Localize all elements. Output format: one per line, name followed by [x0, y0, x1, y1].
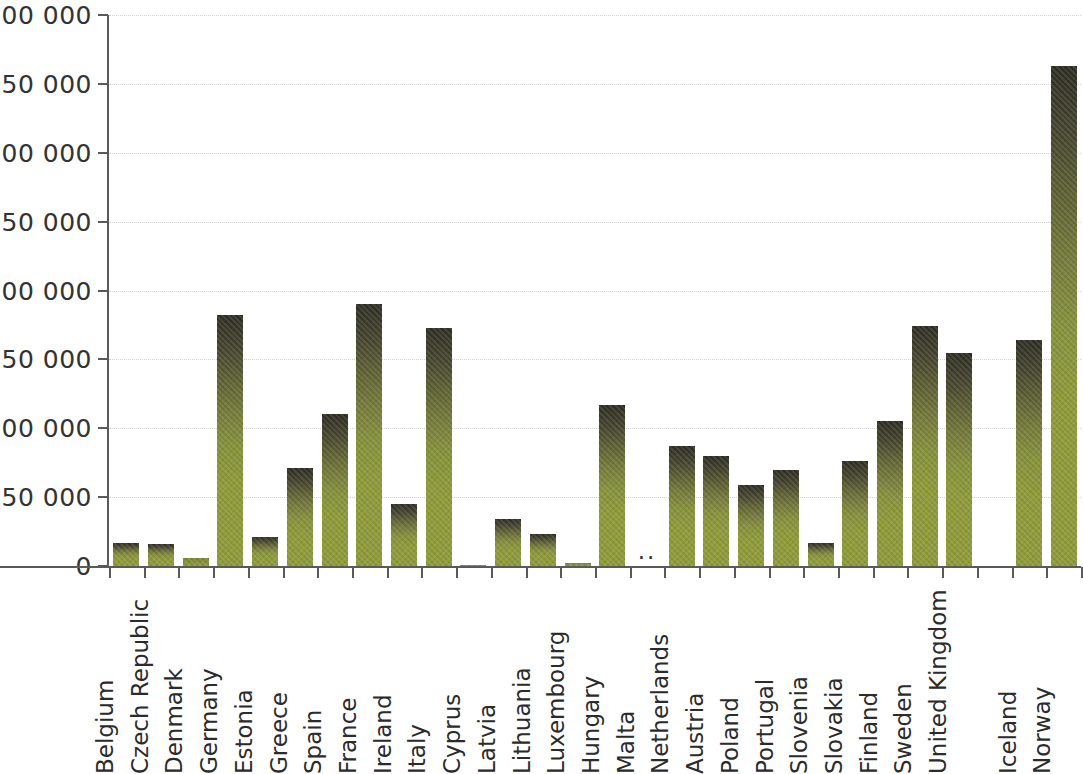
x-axis-label-text: Ireland	[370, 694, 396, 774]
x-axis-label-text: Austria	[682, 693, 708, 774]
bar-slot	[317, 15, 352, 566]
x-tick-mark	[491, 567, 493, 578]
bar-slot	[838, 15, 873, 566]
bar[interactable]	[217, 315, 243, 566]
bar[interactable]	[808, 543, 834, 566]
y-tick-label: 350 000	[0, 69, 92, 98]
x-axis-ticks	[109, 567, 1081, 579]
x-tick-mark	[769, 567, 771, 578]
plot-area: ..	[109, 15, 1081, 566]
x-axis-label-text: Cyprus	[439, 694, 465, 774]
bar[interactable]	[113, 543, 139, 566]
bar[interactable]	[1051, 66, 1077, 566]
bar-slot	[283, 15, 318, 566]
bar[interactable]	[1016, 340, 1042, 566]
y-tick-mark	[98, 14, 108, 16]
bar-slot	[213, 15, 248, 566]
bar[interactable]	[669, 446, 695, 566]
x-axis-label-text: Malta	[613, 711, 639, 774]
y-axis: 050 000100 000150 000200 000250 000300 0…	[0, 0, 108, 580]
bar-slot	[352, 15, 387, 566]
bar[interactable]	[426, 328, 452, 566]
y-tick-mark	[98, 290, 108, 292]
x-tick-mark	[595, 567, 597, 578]
bar[interactable]	[252, 537, 278, 566]
x-tick-mark	[1012, 567, 1014, 578]
bar-slot	[699, 15, 734, 566]
y-tick-label: 300 000	[0, 138, 92, 167]
x-axis-label-text: Latvia	[474, 704, 500, 774]
x-tick-mark	[109, 567, 111, 578]
y-tick-label: 200 000	[0, 276, 92, 305]
bar[interactable]	[877, 421, 903, 566]
bar-slot	[109, 15, 144, 566]
x-tick-mark	[421, 567, 423, 578]
x-tick-mark	[907, 567, 909, 578]
x-axis-label-text: Belgium	[92, 680, 118, 774]
bar[interactable]	[946, 353, 972, 567]
bar[interactable]	[842, 461, 868, 566]
x-tick-mark	[387, 567, 389, 578]
not-available-marker: ..	[638, 546, 657, 556]
y-tick-mark	[98, 221, 108, 223]
bar-slot	[387, 15, 422, 566]
bar[interactable]	[530, 534, 556, 566]
bar-slot	[178, 15, 213, 566]
x-axis-label-text: Italy	[404, 724, 430, 774]
x-axis-label-text: Estonia	[231, 689, 257, 774]
x-tick-mark	[352, 567, 354, 578]
x-tick-mark	[630, 567, 632, 578]
bar[interactable]	[703, 456, 729, 566]
bar[interactable]	[495, 519, 521, 566]
x-tick-mark	[144, 567, 146, 578]
bar-slot	[873, 15, 908, 566]
x-axis-label-text: Finland	[856, 692, 882, 774]
y-tick-label: 250 000	[0, 207, 92, 236]
bar-slot	[803, 15, 838, 566]
y-tick-label: 100 000	[0, 414, 92, 443]
x-tick-mark	[699, 567, 701, 578]
bar[interactable]	[391, 504, 417, 566]
y-tick-mark	[98, 427, 108, 429]
x-axis-labels: BelgiumCzech RepublicDenmarkGermanyEston…	[109, 580, 1081, 748]
bar-slot	[144, 15, 179, 566]
x-axis-label-text: Poland	[717, 697, 743, 774]
bar[interactable]	[738, 485, 764, 566]
y-tick-label: 400 000	[0, 1, 92, 30]
x-tick-mark	[248, 567, 250, 578]
bar[interactable]	[322, 414, 348, 566]
x-axis-label-text: Denmark	[161, 668, 187, 774]
y-tick-mark	[98, 152, 108, 154]
bar-slot	[421, 15, 456, 566]
bar[interactable]	[773, 470, 799, 566]
bar-slot	[1012, 15, 1047, 566]
bar[interactable]	[148, 544, 174, 566]
x-axis-label-text: Portugal	[752, 679, 778, 774]
y-tick-label: 150 000	[0, 345, 92, 374]
x-axis-label-text: Norway	[1029, 687, 1055, 774]
bar-slot	[769, 15, 804, 566]
bar-slot	[734, 15, 769, 566]
bar-slot	[977, 15, 1012, 566]
bar[interactable]	[287, 468, 313, 566]
x-axis-label-text: Hungary	[578, 676, 604, 774]
bar-slot	[248, 15, 283, 566]
x-tick-mark	[734, 567, 736, 578]
bar[interactable]	[183, 558, 209, 566]
bar[interactable]	[599, 405, 625, 566]
x-axis-label-text: Slovenia	[786, 676, 812, 774]
bar[interactable]	[912, 326, 938, 566]
bar-slot	[907, 15, 942, 566]
bar-slot	[595, 15, 630, 566]
x-tick-mark	[213, 567, 215, 578]
bar[interactable]	[356, 304, 382, 566]
y-tick-mark	[98, 83, 108, 85]
x-tick-mark	[178, 567, 180, 578]
y-tick-label: 50 000	[2, 483, 92, 512]
x-axis-label-text: Luxembourg	[543, 631, 569, 774]
x-tick-mark	[664, 567, 666, 578]
x-tick-mark	[942, 567, 944, 578]
bar-slot	[456, 15, 491, 566]
x-tick-mark	[977, 567, 979, 578]
